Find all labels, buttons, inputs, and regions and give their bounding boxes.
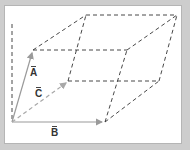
figure-frame: A C B — [0, 0, 190, 150]
vector-c-label: C — [35, 89, 42, 99]
vector-overbar-icon — [52, 126, 57, 127]
parallelepiped-edges — [33, 15, 177, 122]
vector-a-arrow — [12, 53, 32, 122]
vector-overbar-icon — [36, 87, 41, 88]
vector-overbar-icon — [31, 66, 36, 67]
vector-b-label: B — [51, 128, 58, 138]
vector-a-label: A — [30, 68, 37, 78]
parallelepiped-diagram — [0, 0, 190, 150]
